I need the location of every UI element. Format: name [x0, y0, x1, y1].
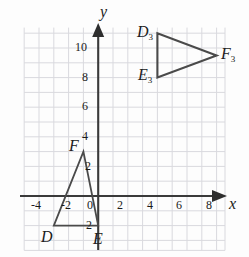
vertex-label-d3-base: D — [137, 23, 149, 40]
x-tick-4: 4 — [147, 199, 153, 211]
x-axis-label: x — [229, 196, 236, 212]
vertex-label-e3-subscript: 3 — [148, 75, 153, 85]
y-axis-label: y — [100, 4, 107, 20]
y-tick-8: 8 — [82, 71, 88, 83]
x-tick-neg2: -2 — [61, 199, 71, 211]
vertex-label-f: F — [69, 138, 79, 154]
x-tick-8: 8 — [206, 199, 212, 211]
y-tick-2: 2 — [85, 160, 91, 172]
vertex-label-e: E — [93, 231, 103, 247]
y-tick-6: 6 — [82, 100, 88, 112]
y-tick-4: 4 — [82, 130, 88, 142]
x-tick-neg4: -4 — [31, 199, 41, 211]
vertex-label-f3-base: F — [221, 45, 231, 62]
y-tick-neg2: 2 — [86, 219, 92, 231]
grid-lines — [24, 28, 225, 251]
x-tick-2: 2 — [117, 199, 123, 211]
x-tick-6: 6 — [176, 199, 182, 211]
vertex-label-e3-base: E — [138, 66, 148, 83]
vertex-label-d3: D3 — [137, 24, 153, 40]
vertex-label-d: D — [41, 229, 53, 245]
coordinate-plane-figure: x y -4 -2 0 2 4 6 8 10 8 6 4 2 2 D E F D… — [0, 0, 249, 257]
triangle-def — [54, 152, 98, 226]
graph-canvas — [0, 0, 249, 257]
vertex-label-d3-subscript: 3 — [149, 32, 154, 42]
vertex-label-e3: E3 — [138, 67, 152, 83]
vertex-label-f3: F3 — [221, 46, 235, 62]
x-tick-0: 0 — [87, 199, 93, 211]
x-axis — [20, 190, 227, 202]
y-tick-10: 10 — [75, 41, 87, 53]
vertex-label-f3-subscript: 3 — [231, 54, 236, 64]
